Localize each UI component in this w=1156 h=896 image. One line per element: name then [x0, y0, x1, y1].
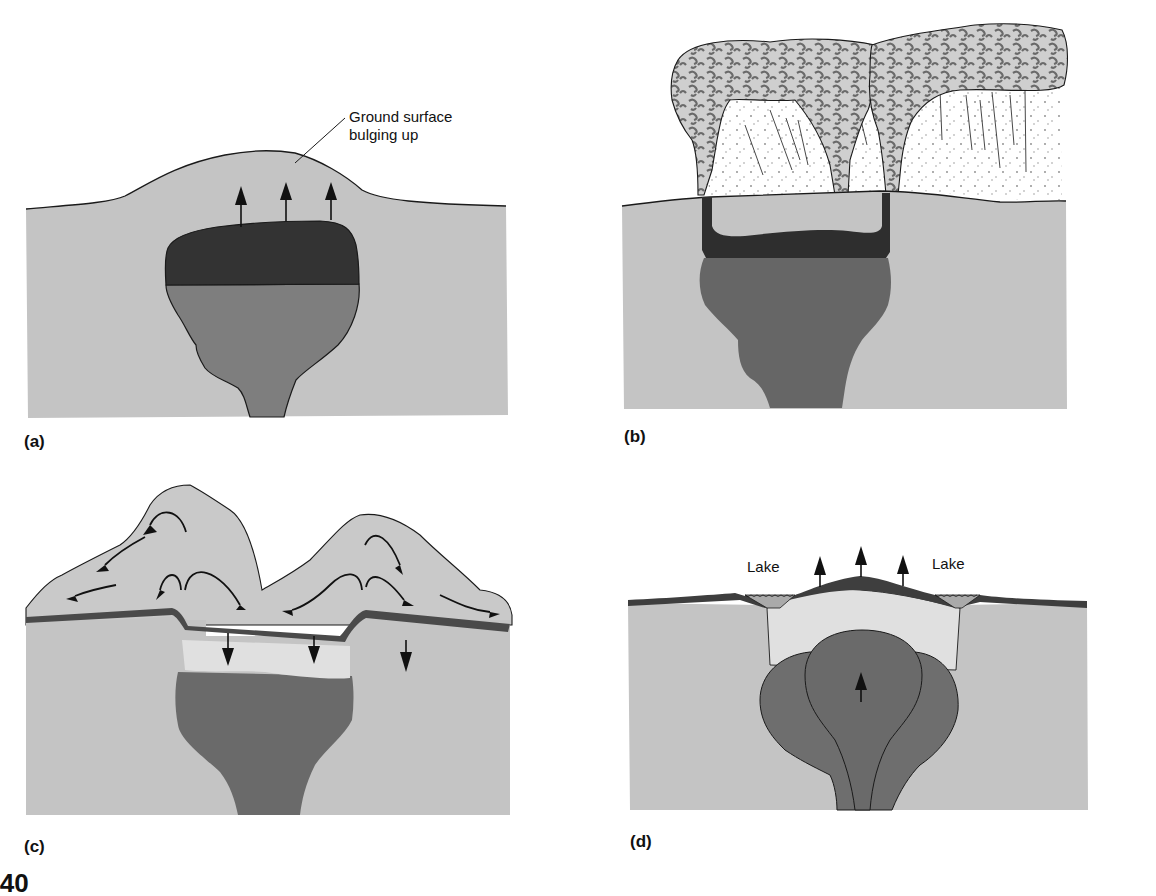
panel-b-diagram	[580, 0, 1156, 450]
lake-label-right: Lake	[932, 555, 965, 573]
country-rock-right	[352, 620, 510, 815]
panel-c: (c)	[0, 440, 620, 889]
annotation-ground-surface: Ground surface bulging up	[349, 108, 452, 144]
panel-d: Lake Lake (d)	[600, 440, 1156, 889]
panel-label-c: (c)	[24, 837, 45, 857]
panel-c-diagram	[0, 440, 620, 889]
annotation-line-2: bulging up	[349, 126, 452, 144]
lake-label-left: Lake	[747, 558, 780, 576]
panel-d-diagram	[600, 440, 1156, 889]
annotation-line-1: Ground surface	[349, 108, 452, 126]
annotation-leader-line	[295, 118, 345, 163]
pyroclastic-cloud	[26, 485, 512, 625]
panel-a: Ground surface bulging up (a)	[0, 0, 580, 450]
panel-a-diagram	[0, 0, 580, 450]
panel-label-d: (d)	[630, 832, 652, 852]
figure-number: 3.40	[0, 868, 29, 896]
panel-b: (b)	[580, 0, 1156, 450]
